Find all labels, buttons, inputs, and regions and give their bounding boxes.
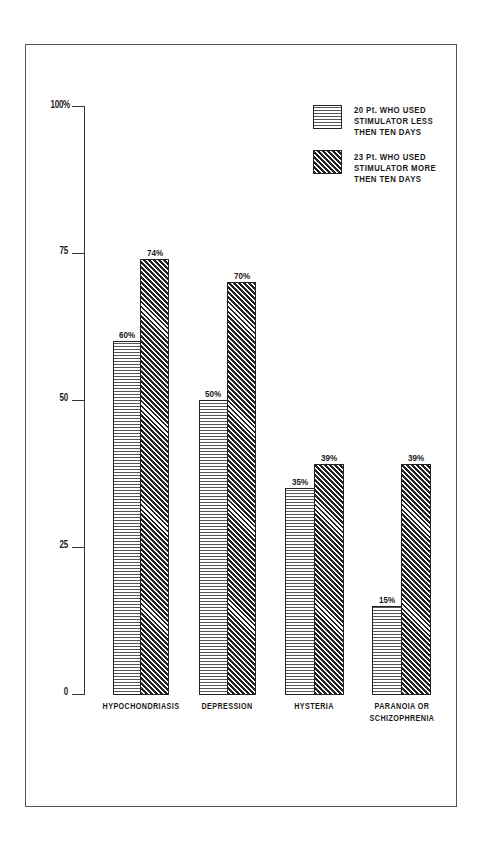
category-label-hysteria: HYSTERIA <box>274 700 354 712</box>
value-label: 35% <box>287 476 313 487</box>
value-label: 39% <box>403 452 429 463</box>
y-tick-label: 75 <box>36 245 68 256</box>
bar-hysteria-more <box>314 464 344 695</box>
y-axis <box>84 106 85 695</box>
bar-depression-less <box>199 400 228 695</box>
y-tick-label: 25 <box>36 539 68 550</box>
bar-hypochondriasis-more <box>140 259 169 695</box>
y-tick-50 <box>72 400 84 401</box>
value-label: 74% <box>142 247 168 258</box>
value-label: 60% <box>114 329 140 340</box>
bar-depression-more <box>227 282 256 695</box>
bar-paranoia-more <box>401 464 431 695</box>
bar-paranoia-less <box>372 606 402 695</box>
y-tick-0 <box>72 694 84 695</box>
y-tick-75 <box>72 253 84 254</box>
y-tick-label: 50 <box>36 392 68 403</box>
value-label: 50% <box>200 388 226 399</box>
legend-label-less-than-ten-days: 20 Pt. WHO USEDSTIMULATOR LESSTHEN TEN D… <box>354 104 433 137</box>
category-label-paranoia-or-schizophrenia: PARANOIA ORSCHIZOPHRENIA <box>362 700 442 724</box>
y-tick-label: 0 <box>36 686 68 697</box>
y-tick-label: 100% <box>38 99 70 110</box>
category-label-hypochondriasis: HYPOCHONDRIASIS <box>101 700 181 712</box>
category-label-depression: DEPRESSION <box>187 700 267 712</box>
bar-hysteria-less <box>285 488 315 695</box>
value-label: 15% <box>374 594 400 605</box>
legend-label-more-than-ten-days: 23 Pt. WHO USEDSTIMULATOR MORETHEN TEN D… <box>354 151 436 184</box>
value-label: 39% <box>316 452 342 463</box>
legend-swatch-horizontal-lines <box>313 105 342 129</box>
y-tick-25 <box>72 547 84 548</box>
legend-swatch-diagonal-hatch <box>313 150 342 174</box>
bar-hypochondriasis-less <box>113 341 141 695</box>
y-tick-100 <box>72 106 84 107</box>
value-label: 70% <box>229 270 255 281</box>
